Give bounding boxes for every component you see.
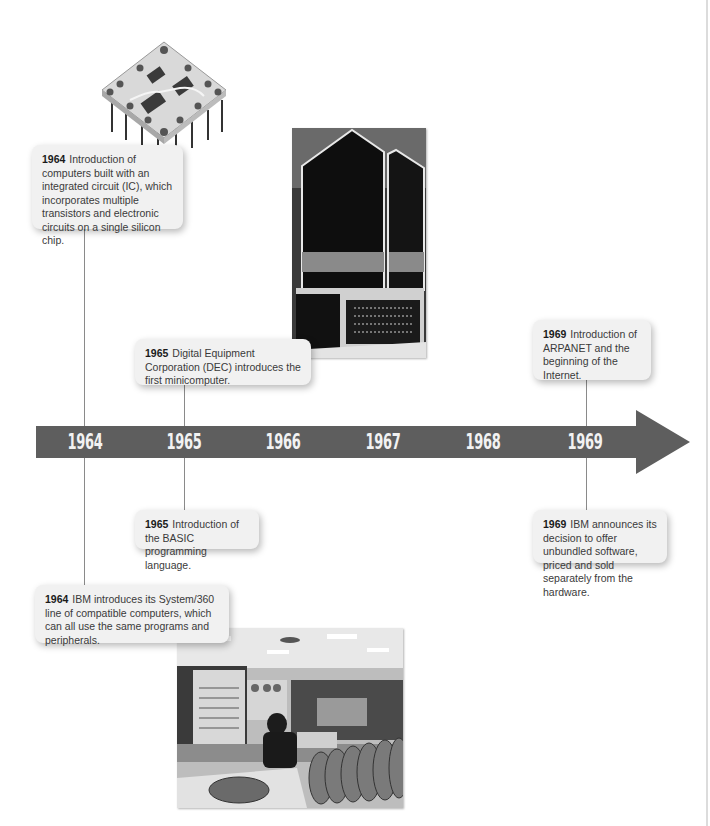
event-1969-unbundled-software: 1969IBM announces its decision to offer … — [533, 510, 667, 563]
year-label-1969: 1969 — [560, 428, 610, 456]
event-year: 1964 — [42, 153, 65, 165]
event-1964-integrated-circuit: 1964Introduction of computers built with… — [32, 145, 183, 229]
timeline-arrow-body — [36, 426, 640, 458]
event-1965-dec-minicomputer: 1965Digital Equipment Corporation (DEC) … — [135, 339, 311, 385]
year-label-1968: 1968 — [458, 428, 508, 456]
page-edge-divider — [706, 0, 708, 826]
event-year: 1965 — [145, 347, 168, 359]
year-label-1966: 1966 — [258, 428, 308, 456]
event-year: 1964 — [45, 593, 68, 605]
event-text: Introduction of computers built with an … — [42, 153, 172, 246]
connector-line-1964 — [84, 228, 85, 586]
event-1965-basic: 1965Introduction of the BASIC programmin… — [135, 510, 259, 549]
year-label-1967: 1967 — [358, 428, 408, 456]
event-year: 1969 — [543, 518, 566, 530]
event-1964-system-360: 1964IBM introduces its System/360 line o… — [35, 585, 229, 643]
event-text: IBM introduces its System/360 line of co… — [45, 593, 214, 646]
timeline-arrow-head-icon — [636, 410, 690, 474]
year-label-1964: 1964 — [60, 428, 110, 456]
event-text: Digital Equipment Corporation (DEC) intr… — [145, 347, 301, 386]
event-year: 1969 — [543, 328, 566, 340]
event-year: 1965 — [145, 518, 168, 530]
integrated-circuit-chip-image — [100, 40, 228, 155]
year-label-1965: 1965 — [159, 428, 209, 456]
dec-minicomputer-photo — [292, 128, 426, 358]
event-1969-arpanet: 1969Introduction of ARPANET and the begi… — [533, 320, 651, 380]
ibm-system-360-photo — [177, 628, 403, 808]
